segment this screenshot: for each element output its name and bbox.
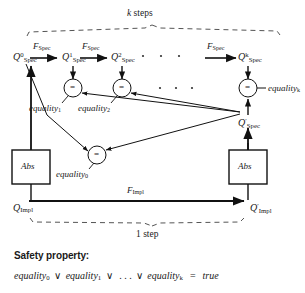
comparator-equals-1: =: [70, 83, 75, 92]
comparator-equals-2: =: [119, 83, 124, 92]
formula-or-3: ∨: [134, 270, 148, 281]
state-q1-spec: Q1Spec: [62, 52, 86, 64]
safety-property-heading: Safety property:: [14, 250, 89, 261]
abs-box-left-label: Abs: [21, 162, 35, 171]
formula-ellipsis: . . .: [117, 270, 134, 281]
qprime-fanout-lines: [82, 93, 240, 150]
transition-label-f-spec-k: FSpec: [207, 42, 224, 51]
formula-term-0: equality0: [14, 270, 50, 281]
k-steps-bracket: [27, 25, 280, 36]
state-qprime-impl: Q′Impl: [250, 203, 272, 215]
transition-label-f-spec-2: FSpec: [82, 42, 99, 51]
spec-row-ellipsis: [142, 55, 180, 57]
equality-label-2: equality2: [78, 104, 110, 113]
one-step-label: 1 step: [136, 230, 158, 240]
comparator-row-ellipsis: [159, 87, 193, 89]
formula-or-1: ∨: [50, 270, 66, 281]
formula-term-1: equality1: [66, 270, 102, 281]
state-q0-spec: Q0Spec: [13, 52, 37, 64]
abs-box-right-label: Abs: [238, 162, 252, 171]
transition-label-f-impl: FImpl: [127, 186, 144, 195]
equality-label-0: equality0: [56, 170, 88, 179]
safety-property-formula: equality0 ∨ equality1 ∨ . . .∨ equalityk…: [14, 270, 219, 281]
state-qk-spec: QkSpec: [238, 52, 262, 64]
equality-label-k: equalityk: [268, 84, 300, 93]
k-steps-label: k steps: [127, 9, 153, 19]
figure-root: k steps 1 step Q0Spec Q1Spec Q2Spec QkSp…: [0, 0, 305, 293]
formula-or-2: ∨: [101, 270, 117, 281]
state-q-impl: QImpl: [13, 203, 33, 214]
state-q2-spec: Q2Spec: [111, 52, 135, 64]
transition-label-f-spec-1: FSpec: [33, 42, 50, 51]
comparator-circles: [64, 79, 257, 164]
k-steps-word: steps: [131, 8, 152, 18]
one-step-bracket: [30, 218, 244, 226]
comparator-equals-k: =: [245, 83, 250, 92]
formula-result: true: [203, 270, 219, 281]
state-to-comparator-arrows: [73, 66, 248, 79]
equality-label-1: equality1: [29, 104, 61, 113]
formula-equals: =: [183, 270, 203, 281]
state-qprime-spec: Q′Spec: [238, 118, 260, 130]
formula-term-k: equalityk: [147, 270, 183, 281]
comparator-equals-0: =: [94, 150, 99, 159]
